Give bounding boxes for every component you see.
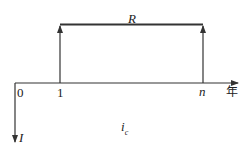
axis-unit-label: 年 (226, 86, 238, 98)
rate-label: ic (121, 120, 128, 137)
investment-label: I (19, 131, 23, 144)
annuity-label: R (128, 12, 136, 25)
tick-label-0: 0 (17, 86, 24, 99)
tick-label-1: 1 (57, 86, 64, 99)
rate-subscript: c (125, 128, 129, 137)
tick-label-n: n (199, 85, 206, 98)
